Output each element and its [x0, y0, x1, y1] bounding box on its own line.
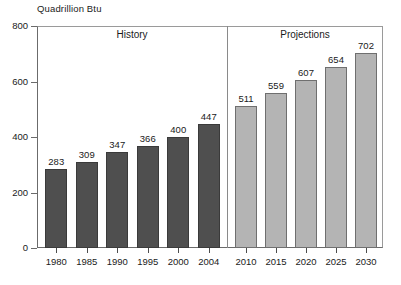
- bar-value-label-2010: 511: [226, 94, 266, 104]
- bar-1990: [106, 152, 128, 248]
- bar-2000: [167, 137, 189, 248]
- y-axis-label: 800: [0, 21, 28, 31]
- y-axis-tick: [31, 248, 37, 249]
- y-axis-tick: [31, 82, 37, 83]
- x-axis-tick: [178, 248, 179, 253]
- section-label-projections: Projections: [280, 29, 329, 40]
- chart-screenshot: Quadrillion Btu 0200400600800 History Pr…: [0, 0, 401, 285]
- x-axis-tick: [306, 248, 307, 253]
- x-axis-tick: [276, 248, 277, 253]
- x-axis-tick: [246, 248, 247, 253]
- bar-value-label-1985: 309: [67, 150, 107, 160]
- x-axis-tick: [87, 248, 88, 253]
- history-projection-divider: [227, 26, 228, 248]
- x-axis-tick: [336, 248, 337, 253]
- bar-value-label-2020: 607: [286, 68, 326, 78]
- bar-2004: [198, 124, 220, 248]
- x-axis-tick: [117, 248, 118, 253]
- x-axis-tick: [148, 248, 149, 253]
- section-label-history: History: [116, 29, 147, 40]
- bar-2030: [355, 53, 377, 248]
- y-axis-label: 200: [0, 188, 28, 198]
- y-axis-tick: [31, 193, 37, 194]
- x-axis-tick: [56, 248, 57, 253]
- bar-1985: [76, 162, 98, 248]
- bar-2025: [325, 67, 347, 248]
- bar-value-label-1995: 366: [128, 134, 168, 144]
- bar-2010: [235, 106, 257, 248]
- x-axis-label-2004: 2004: [189, 256, 229, 267]
- bar-2020: [295, 80, 317, 248]
- chart-axis-title: Quadrillion Btu: [37, 3, 102, 14]
- bar-value-label-2015: 559: [256, 81, 296, 91]
- y-axis-tick: [31, 137, 37, 138]
- bar-value-label-2000: 400: [158, 125, 198, 135]
- bar-value-label-2004: 447: [189, 112, 229, 122]
- y-axis-label: 600: [0, 77, 28, 87]
- bar-1980: [45, 169, 67, 248]
- x-axis-tick: [366, 248, 367, 253]
- y-axis-label: 0: [0, 243, 28, 253]
- y-axis-label: 400: [0, 132, 28, 142]
- bar-1995: [137, 146, 159, 248]
- bar-value-label-2030: 702: [346, 41, 386, 51]
- y-axis-tick: [31, 26, 37, 27]
- x-axis-tick: [209, 248, 210, 253]
- bar-2015: [265, 93, 287, 248]
- x-axis-label-2030: 2030: [346, 256, 386, 267]
- bar-value-label-2025: 654: [316, 55, 356, 65]
